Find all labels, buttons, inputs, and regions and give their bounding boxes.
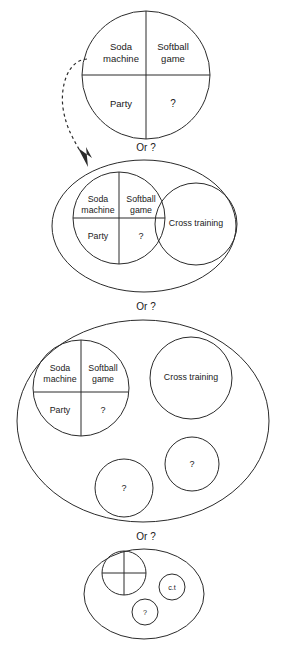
stage1-soda-machine-line1: Soda xyxy=(110,41,133,52)
stage2-cross-training-label: Cross training xyxy=(169,218,223,228)
stage1-party-label: Party xyxy=(110,98,132,109)
stage-2-group: Soda machine Softball game Party ? Cross… xyxy=(52,160,237,292)
connector-label-3: Or ? xyxy=(136,531,156,542)
stage2-unknown-label: ? xyxy=(138,231,143,241)
stage2-soda-machine-line2: machine xyxy=(81,205,114,215)
arrow-head-icon xyxy=(78,147,92,167)
connector-label-1: Or ? xyxy=(136,142,156,153)
stage2-softball-game-line2: game xyxy=(130,205,152,215)
stage3-softball-game-line2: game xyxy=(92,374,114,384)
stage3-soda-machine-line2: machine xyxy=(43,374,76,384)
stage1-to-stage2-dashed-arrow xyxy=(62,59,87,151)
connector-label-2: Or ? xyxy=(136,301,156,312)
stage3-unknown-circle-right-label: ? xyxy=(189,459,194,469)
stage3-cross-training-label: Cross training xyxy=(164,372,218,382)
stage1-soda-machine-line2: machine xyxy=(103,53,139,64)
stage3-outer-ellipse xyxy=(17,320,269,522)
stage-4-group: c.t ? xyxy=(84,549,204,639)
stage3-soda-machine-line1: Soda xyxy=(50,363,71,373)
stage2-party-label: Party xyxy=(88,231,109,241)
stage-3-group: Soda machine Softball game Party ? Cross… xyxy=(17,320,269,522)
stage3-unknown-circle-left-label: ? xyxy=(121,483,126,493)
stage4-unknown-label: ? xyxy=(143,608,147,617)
stage1-unknown-label: ? xyxy=(170,98,176,109)
stage1-softball-game-line1: Softball xyxy=(157,41,189,52)
stage4-cross-training-label: c.t xyxy=(168,583,176,592)
diagram-root: Soda machine Softball game Party ? Or ? … xyxy=(0,0,285,653)
stage2-soda-machine-line1: Soda xyxy=(88,194,109,204)
stage2-softball-game-line1: Softball xyxy=(126,194,155,204)
nested-set-diagram: Soda machine Softball game Party ? Or ? … xyxy=(0,0,285,653)
stage1-softball-game-line2: game xyxy=(161,53,185,64)
stage3-party-label: Party xyxy=(50,405,71,415)
stage-1-group: Soda machine Softball game Party ? xyxy=(82,11,210,139)
stage4-outer-ellipse xyxy=(84,549,204,639)
stage3-unknown-label: ? xyxy=(100,405,105,415)
stage3-softball-game-line1: Softball xyxy=(88,363,117,373)
